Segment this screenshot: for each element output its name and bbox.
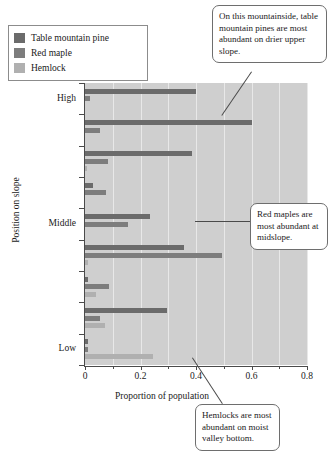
bar	[85, 89, 196, 94]
bar	[85, 292, 96, 297]
bar	[85, 323, 105, 328]
y-axis-line	[84, 83, 85, 366]
x-axis-tick-label: 0.2	[126, 371, 156, 381]
x-axis-tick-label: 0	[70, 371, 100, 381]
y-axis-tick	[79, 365, 84, 366]
legend-item-red-maple: Red maple	[14, 46, 142, 60]
bar	[85, 214, 150, 219]
y-axis-tick	[79, 334, 84, 335]
bar	[85, 339, 88, 344]
callout-table-mountain-pine: On this mountainside, table mountain pin…	[212, 5, 327, 63]
y-axis-tick-label: Low	[28, 343, 76, 353]
y-axis-title: Position on slope	[11, 150, 21, 270]
y-axis-tick	[79, 302, 84, 303]
legend-label-red-maple: Red maple	[31, 48, 72, 58]
bar	[85, 222, 128, 227]
bar	[85, 308, 167, 313]
bar	[85, 96, 90, 101]
legend-label-table-mountain-pine: Table mountain pine	[31, 33, 109, 43]
x-axis-minor-tick	[224, 366, 225, 369]
x-axis-minor-tick	[113, 366, 114, 369]
callout-red-maple: Red maples are most abundant at midslope…	[250, 203, 328, 250]
x-axis-tick	[196, 366, 197, 370]
bar	[85, 354, 153, 359]
callout-leader-line	[195, 221, 250, 222]
bar	[85, 277, 88, 282]
legend-swatch-table-mountain-pine	[14, 33, 25, 43]
x-axis-tick-label: 0.4	[181, 371, 211, 381]
bar	[85, 159, 108, 164]
y-axis-tick-label: Middle	[28, 218, 76, 228]
y-axis-tick	[79, 114, 84, 115]
x-axis-tick	[141, 366, 142, 370]
legend-item-table-mountain-pine: Table mountain pine	[14, 31, 142, 45]
legend-label-hemlock: Hemlock	[31, 63, 66, 73]
legend-item-hemlock: Hemlock	[14, 61, 142, 75]
legend-swatch-hemlock	[14, 63, 25, 73]
y-axis-tick	[79, 83, 84, 84]
bar	[85, 245, 184, 250]
bar	[85, 151, 192, 156]
x-axis-tick	[85, 366, 86, 370]
bar	[85, 284, 109, 289]
y-axis-tick	[79, 271, 84, 272]
y-axis-tick	[79, 146, 84, 147]
bar	[85, 128, 100, 133]
bar	[85, 316, 100, 321]
y-axis-tick	[79, 177, 84, 178]
x-axis-tick	[307, 366, 308, 370]
chart-figure: Table mountain pine Red maple Hemlock Pr…	[0, 0, 331, 469]
y-axis-tick	[79, 208, 84, 209]
bar	[85, 190, 106, 195]
bar	[85, 183, 93, 188]
x-axis-tick-label: 0.8	[292, 371, 322, 381]
y-axis-tick	[79, 240, 84, 241]
legend-swatch-red-maple	[14, 48, 25, 58]
x-axis-minor-tick	[279, 366, 280, 369]
chart-legend: Table mountain pine Red maple Hemlock	[8, 25, 148, 81]
callout-hemlock: Hemlocks are most abundant on moist vall…	[195, 404, 280, 451]
x-axis-minor-tick	[168, 366, 169, 369]
bar	[85, 260, 88, 265]
y-axis-tick-label: High	[28, 93, 76, 103]
bar	[85, 253, 222, 258]
x-axis-tick	[252, 366, 253, 370]
x-axis-title: Proportion of population	[62, 391, 262, 401]
bar	[85, 120, 252, 125]
bar	[85, 347, 88, 352]
x-axis-tick-label: 0.6	[237, 371, 267, 381]
bar	[85, 166, 87, 171]
